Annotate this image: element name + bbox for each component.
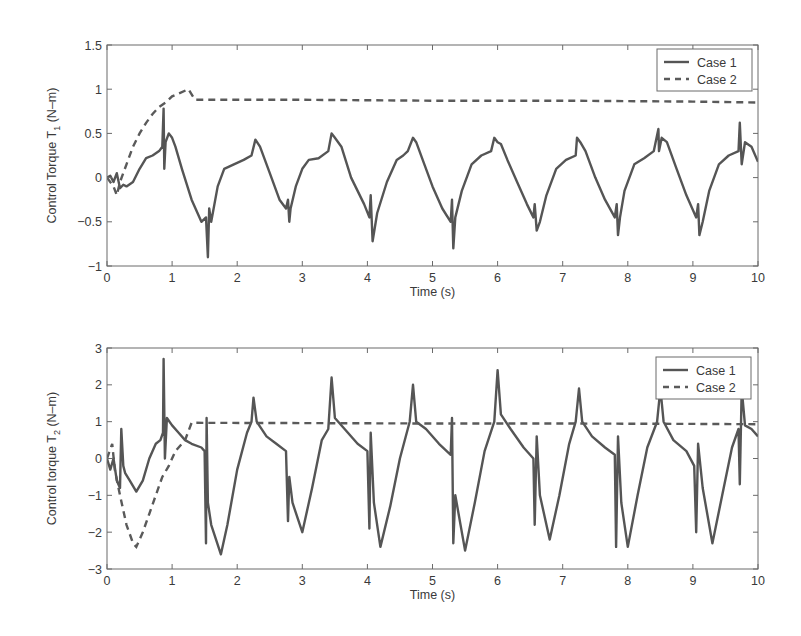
x-tick-label: 5 [429, 574, 436, 588]
y-axis-title-main: Control Torque T [45, 130, 59, 223]
y-tick-label: 3 [95, 342, 102, 356]
y-axis-title: Control Torque T1 (N–m) [45, 88, 62, 224]
y-tick-label: −2 [88, 526, 102, 540]
x-tick-label: 7 [559, 271, 566, 285]
x-tick-label: 2 [234, 271, 241, 285]
x-tick-label: 1 [169, 271, 176, 285]
y-tick-label: 1 [95, 83, 102, 97]
legend-label-case-1: Case 1 [697, 56, 737, 70]
x-tick-label: 0 [104, 574, 111, 588]
x-tick-label: 7 [559, 574, 566, 588]
x-tick-label: 10 [751, 271, 765, 285]
x-tick-label: 2 [234, 574, 241, 588]
x-tick-label: 6 [494, 574, 501, 588]
y-axis-title: Control torque T2 (N–m) [45, 392, 62, 525]
legend-label-case-2: Case 2 [696, 381, 736, 395]
panel-top-torque-t1: 0123456789101.510.50−0.5−1 Control Torqu… [45, 39, 765, 300]
y-tick-label: 2 [95, 378, 102, 392]
x-axis-title: Time (s) [410, 285, 455, 299]
legend-label-case-1: Case 1 [696, 364, 736, 378]
series-layer [107, 89, 758, 257]
x-tick-label: 6 [494, 271, 501, 285]
x-tick-label: 0 [104, 271, 111, 285]
y-tick-label: 1.5 [85, 39, 102, 53]
y-axis-title-main: Control torque T [45, 435, 59, 525]
y-tick-label: −0.5 [77, 215, 102, 229]
y-axis-title-unit: (N–m) [45, 88, 59, 126]
legend: Case 1 Case 2 [657, 49, 752, 91]
x-tick-label: 9 [689, 271, 696, 285]
panel-bottom-torque-t2: 0123456789103210−1−2−3 Control torque T2… [45, 342, 765, 603]
x-axis-title: Time (s) [410, 588, 455, 602]
figure-canvas: 0123456789101.510.50−0.5−1 Control Torqu… [0, 0, 801, 636]
series-case-1 [107, 109, 758, 258]
x-tick-label: 5 [429, 271, 436, 285]
y-tick-label: 0.5 [85, 127, 102, 141]
x-tick-label: 8 [624, 271, 631, 285]
x-tick-label: 4 [364, 574, 371, 588]
y-tick-label: −1 [88, 260, 102, 274]
x-tick-label: 1 [169, 574, 176, 588]
x-tick-label: 10 [751, 574, 765, 588]
x-tick-label: 8 [624, 574, 631, 588]
figure: 0123456789101.510.50−0.5−1 Control Torqu… [0, 0, 801, 636]
y-tick-label: −1 [88, 489, 102, 503]
y-tick-label: −3 [88, 563, 102, 577]
y-tick-label: 0 [95, 452, 102, 466]
legend-label-case-2: Case 2 [697, 73, 737, 87]
legend: Case 1 Case 2 [656, 357, 751, 399]
x-tick-label: 3 [299, 574, 306, 588]
y-axis-title-unit: (N–m) [45, 392, 59, 430]
x-tick-label: 4 [364, 271, 371, 285]
y-tick-label: 1 [95, 415, 102, 429]
x-tick-label: 9 [689, 574, 696, 588]
y-tick-label: 0 [95, 171, 102, 185]
x-tick-label: 3 [299, 271, 306, 285]
